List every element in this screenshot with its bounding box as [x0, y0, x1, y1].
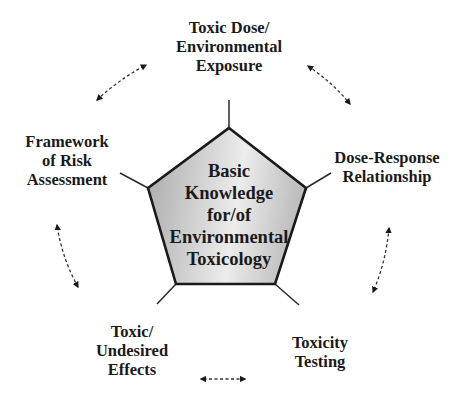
node-label-line: Effects [82, 360, 182, 379]
center-label-line: for/of [159, 204, 299, 226]
spoke-bottom-left [157, 284, 176, 304]
center-label-line: Basic [159, 160, 299, 182]
node-label-line: Toxic/ [82, 322, 182, 341]
node-right-label: Dose-Response Relationship [322, 148, 451, 186]
center-label-line: Knowledge [159, 182, 299, 204]
center-label-line: Environmental [159, 226, 299, 248]
node-label-line: Dose-Response [322, 148, 451, 167]
node-label-line: Testing [270, 352, 370, 371]
node-label-line: Undesired [82, 341, 182, 360]
node-label-line: Assessment [12, 170, 122, 189]
arrow-right-to-bottom-right [373, 228, 389, 292]
node-label-line: of Risk [12, 151, 122, 170]
node-label-line: Framework [12, 132, 122, 151]
node-label-line: Toxic Dose/ [164, 18, 294, 37]
node-label-line: Environmental [164, 37, 294, 56]
arrow-bottom-left-to-left [57, 225, 78, 287]
node-bottom-left-label: Toxic/ Undesired Effects [82, 322, 182, 379]
arrow-left-to-top [97, 65, 146, 100]
node-label-line: Exposure [164, 56, 294, 75]
node-top-label: Toxic Dose/ Environmental Exposure [164, 18, 294, 75]
node-bottom-right-label: Toxicity Testing [270, 333, 370, 371]
node-label-line: Relationship [322, 167, 451, 186]
arrow-top-to-right [308, 66, 350, 104]
center-label-line: Toxicology [159, 248, 299, 270]
node-left-label: Framework of Risk Assessment [12, 132, 122, 189]
spoke-left [120, 173, 148, 188]
node-label-line: Toxicity [270, 333, 370, 352]
spoke-bottom-right [275, 284, 299, 305]
center-label: Basic Knowledge for/of Environmental Tox… [159, 160, 299, 270]
